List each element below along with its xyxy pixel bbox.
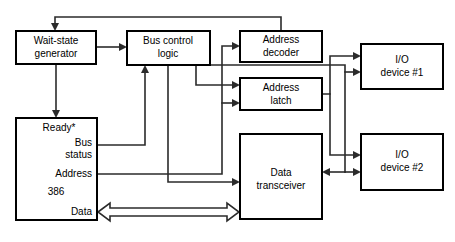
cpu-pin-bus-status-line2: status [65, 149, 92, 160]
wire-decoder-to-waitstate [51, 17, 281, 31]
data-bus-arrow [98, 203, 239, 221]
block-diagram: Wait-state generator Bus control logic A… [0, 0, 455, 242]
wire-waitstate-to-386-ready [52, 64, 60, 118]
data-transceiver-label-line2: transceiver [257, 180, 307, 191]
wire-addresslatch-to-io-devices [322, 52, 361, 159]
io-device-1-label-line2: device #1 [381, 67, 424, 78]
block-address-decoder[interactable]: Address decoder [240, 31, 322, 62]
wait-state-generator-label-line1: Wait-state [34, 35, 79, 46]
io-device-2-label-line1: I/O [395, 149, 409, 160]
wire-transceiver-to-io-bus [322, 168, 345, 176]
wire-buscontrol-to-transceiver [168, 65, 240, 186]
cpu-pin-data: Data [71, 206, 93, 217]
block-data-transceiver[interactable]: Data transceiver [240, 134, 322, 219]
cpu-pin-address: Address [55, 168, 92, 179]
diagram-canvas: Wait-state generator Bus control logic A… [0, 0, 455, 242]
io-device-2-label-line2: device #2 [381, 162, 424, 173]
block-cpu-386[interactable]: Ready* Bus status Address 386 Data [16, 118, 97, 220]
address-latch-label-line1: Address [263, 82, 300, 93]
wait-state-generator-label-line2: generator [35, 48, 78, 59]
address-decoder-label-line1: Address [263, 34, 300, 45]
cpu-pin-bus-status-line1: Bus [75, 137, 92, 148]
block-address-latch[interactable]: Address latch [240, 78, 322, 110]
address-decoder-label-line2: decoder [263, 47, 300, 58]
bus-control-logic-label-line1: Bus control [143, 35, 193, 46]
wire-buscontrol-to-io1 [345, 68, 361, 76]
wire-buscontrol-to-addresslatch [196, 65, 240, 89]
cpu-chip-label: 386 [48, 186, 65, 197]
address-latch-label-line2: latch [270, 95, 291, 106]
wire-386-address-to-latch [222, 99, 240, 107]
wire-waitstate-to-buscontrol [96, 43, 127, 51]
block-io-device-2[interactable]: I/O device #2 [361, 134, 443, 190]
wire-buscontrol-to-io2 [345, 168, 361, 176]
block-bus-control-logic[interactable]: Bus control logic [127, 31, 210, 65]
bus-control-logic-label-line2: logic [158, 48, 179, 59]
block-io-device-1[interactable]: I/O device #1 [361, 44, 443, 89]
cpu-pin-ready: Ready* [43, 122, 76, 133]
io-device-1-label-line1: I/O [395, 54, 409, 65]
data-transceiver-label-line1: Data [270, 167, 292, 178]
block-wait-state-generator[interactable]: Wait-state generator [16, 31, 96, 64]
wire-386-busstatus-to-buscontrol [97, 65, 149, 145]
